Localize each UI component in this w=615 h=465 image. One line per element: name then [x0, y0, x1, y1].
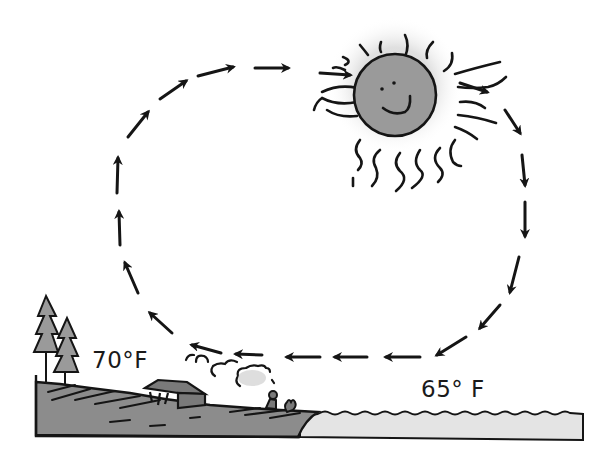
land-temperature-label: 70°F [92, 347, 148, 373]
sea-breeze-diagram: 70°F 65° F [0, 0, 615, 465]
sun [314, 17, 506, 191]
water-temperature-label: 65° F [421, 376, 485, 402]
water [300, 412, 583, 441]
diagram-artwork [0, 0, 615, 465]
circulation-arrows [117, 67, 525, 357]
pine-trees [34, 296, 78, 385]
